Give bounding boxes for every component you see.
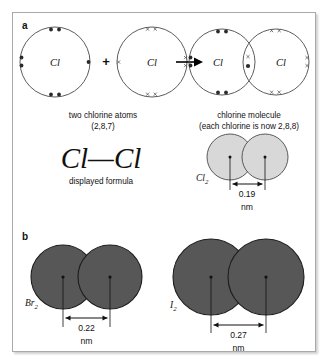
atom-symbol: Cl xyxy=(50,57,60,68)
i2-bond-length-value: 0.27 xyxy=(230,330,247,340)
product-caption-line1: chlorine molecule xyxy=(217,111,281,120)
br2-molecule-label: Br2 xyxy=(25,298,39,310)
cl2-space-filling-model: 0.19 nm Cl2 xyxy=(196,134,288,212)
cl2-bond-length-unit: nm xyxy=(241,202,253,212)
atom-symbol: Cl xyxy=(276,57,286,68)
chemistry-figure: a b Cl + Cl xyxy=(0,0,328,364)
i2-space-filling-model: 0.27 nm I2 xyxy=(169,239,304,353)
atom-symbol: Cl xyxy=(147,57,157,68)
cl2-label-subscript: 2 xyxy=(205,178,209,185)
cl2-label-base: Cl xyxy=(196,173,205,183)
atom-symbol: Cl xyxy=(213,57,223,68)
diagram-canvas: Cl + Cl xyxy=(0,0,328,364)
plus-sign: + xyxy=(102,54,110,69)
i2-molecule-label: I2 xyxy=(169,300,177,312)
br2-space-filling-model: 0.22 nm Br2 xyxy=(25,245,142,346)
reactant-caption-line2: (2,8,7) xyxy=(91,122,115,131)
shared-electron-pair xyxy=(246,55,250,68)
product-atom-2: Cl xyxy=(243,29,309,95)
product-molecule: Cl Cl xyxy=(189,29,309,95)
br2-bond-length-unit: nm xyxy=(81,336,93,346)
displayed-formula-text: Cl—Cl xyxy=(61,142,142,174)
cl2-molecule-label: Cl2 xyxy=(196,173,209,185)
displayed-formula-caption: displayed formula xyxy=(69,177,134,186)
reactant-caption-line1: two chlorine atoms xyxy=(69,111,137,120)
reactant-atom-1: Cl xyxy=(20,27,91,97)
cl2-bond-dimension xyxy=(233,182,263,187)
product-caption-line2: (each chlorine is now 2,8,8) xyxy=(199,122,299,131)
i2-bond-length-unit: nm xyxy=(233,343,245,353)
br2-bond-dimension xyxy=(66,316,108,321)
br2-label-base: Br xyxy=(25,298,35,308)
br2-label-subscript: 2 xyxy=(35,303,39,310)
cl2-bond-length-value: 0.19 xyxy=(239,189,256,199)
br2-bond-length-value: 0.22 xyxy=(78,323,95,333)
i2-label-subscript: 2 xyxy=(173,305,177,312)
i2-bond-dimension xyxy=(214,323,264,328)
